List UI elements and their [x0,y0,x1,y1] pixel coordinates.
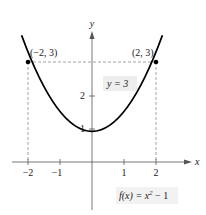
tick-label-x-neg1: −1 [52,167,63,178]
tick-label-x-2: 2 [154,167,159,178]
y-axis-label: y [89,18,95,29]
x-axis-arrow-icon [184,160,192,165]
function-label: f(x) = x2 − 1 [119,189,168,202]
x-axis-label: x [194,156,200,167]
point-neg2-3 [26,60,31,65]
tick-label-x-neg2: −2 [23,167,34,178]
tick-label-x-1: 1 [122,167,127,178]
line-label-y3: y = 3 [106,78,128,89]
tick-label-y-2: 2 [80,90,85,101]
point-label-left: (−2, 3) [30,47,57,59]
y-axis-arrow-icon [90,31,95,39]
point-label-right: (2, 3) [132,47,154,59]
point-2-3 [154,60,159,65]
parabola-chart: −2 −1 1 2 1 2 y x (−2, 3) (2, 3) y = 3 f… [0,0,206,215]
